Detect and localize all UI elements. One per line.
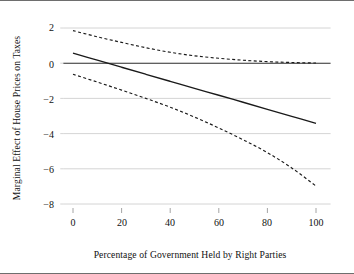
series-line-1 xyxy=(73,31,316,63)
x-tick-marks-group xyxy=(73,208,316,213)
figure-container: Marginal Effect of House Prices on Taxes… xyxy=(0,0,354,274)
series-line-2 xyxy=(73,74,316,186)
x-axis-title: Percentage of Government Held by Right P… xyxy=(40,249,340,260)
x-tick-label-100: 100 xyxy=(296,217,336,229)
x-tick-label-20: 20 xyxy=(102,217,142,229)
x-tick-label-0: 0 xyxy=(53,217,93,229)
data-series-group xyxy=(73,31,316,186)
y-tick-label-2: 2 xyxy=(28,22,54,34)
x-tick-label-80: 80 xyxy=(247,217,287,229)
x-tick-label-60: 60 xyxy=(199,217,239,229)
y-axis-title: Marginal Effect of House Prices on Taxes xyxy=(9,11,24,225)
y-tick-label-0: 0 xyxy=(28,59,54,71)
y-tick-label-minus-8: −8 xyxy=(28,199,54,211)
y-tick-label-minus-6: −6 xyxy=(28,164,54,176)
y-tick-label-minus-4: −4 xyxy=(28,129,54,141)
y-tick-label-minus-2: −2 xyxy=(28,94,54,106)
x-tick-label-40: 40 xyxy=(150,217,190,229)
